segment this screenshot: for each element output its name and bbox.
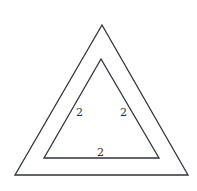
triangle-diagram: 2 2 2	[0, 0, 197, 191]
inner-triangle	[44, 59, 159, 158]
bottom-side-label: 2	[97, 146, 104, 159]
right-side-label: 2	[120, 106, 127, 119]
diagram-canvas: 2 2 2	[0, 0, 197, 191]
left-side-label: 2	[76, 106, 83, 119]
